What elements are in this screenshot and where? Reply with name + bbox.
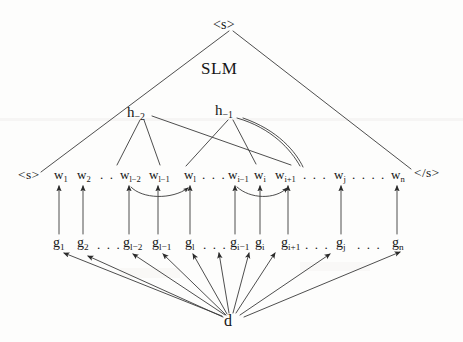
tag-sub: n — [399, 242, 404, 252]
tag-base: g — [392, 235, 399, 250]
head-node-sub: −1 — [223, 109, 234, 120]
tag-base: g — [123, 235, 130, 250]
head-node-sub: −2 — [135, 111, 146, 122]
tag-token-i: gi — [255, 236, 265, 252]
word-sub: l−2 — [129, 174, 141, 184]
word-base: w — [275, 167, 284, 182]
word-base: w — [120, 167, 129, 182]
word-base: w — [184, 167, 193, 182]
word-sub: j — [343, 174, 345, 184]
tag-sub: i−1 — [237, 242, 249, 252]
word-token-l-minus-1: wl−1 — [149, 168, 170, 183]
tag-token-1: g1 — [53, 236, 65, 252]
tag-sub: i — [262, 242, 265, 252]
head-node-base: h — [215, 102, 223, 118]
tag-sub: 1 — [60, 242, 65, 252]
word-base: w — [149, 167, 158, 182]
word-sub: i+1 — [284, 174, 296, 184]
word-base: w — [334, 167, 343, 182]
word-token-l-minus-2: wl−2 — [120, 168, 141, 183]
tag-ellipsis-3: . . . — [305, 238, 329, 251]
word-token-2: w2 — [77, 168, 91, 183]
tag-token-n: gn — [392, 236, 404, 252]
tag-base: g — [336, 235, 343, 250]
tag-sub: l−2 — [130, 242, 142, 252]
word-token-i: wi — [254, 168, 266, 183]
word-sub: i−1 — [237, 174, 249, 184]
tag-sub: i+1 — [288, 242, 300, 252]
head-node-h-minus-2: h−2 — [127, 105, 145, 122]
head-node-base: h — [127, 104, 135, 120]
word-base: w — [228, 167, 237, 182]
word-sub: i — [263, 174, 265, 184]
tag-base: g — [230, 235, 237, 250]
tag-token-i-plus-1: gi+1 — [281, 236, 300, 252]
tag-base: g — [77, 235, 84, 250]
word-sub: n — [400, 174, 404, 184]
root-node-label: <s> — [213, 18, 235, 32]
word-ellipsis-2: . . . — [202, 168, 226, 181]
tag-token-i-minus-1: gi−1 — [230, 236, 249, 252]
word-ellipsis-3: . . . — [303, 168, 327, 181]
tag-base: g — [281, 235, 288, 250]
word-sub: l — [193, 174, 195, 184]
sentence-start-token: <s> — [18, 168, 39, 182]
word-token-1: w1 — [54, 168, 68, 183]
tag-token-l-minus-2: gl−2 — [123, 236, 142, 252]
tag-token-j: gj — [336, 236, 346, 252]
tag-base: g — [152, 235, 159, 250]
word-base: w — [391, 167, 400, 182]
data-node-label: d — [224, 313, 232, 329]
slm-tree-diagram: <s> SLM h−2 h−1 <s> w1 w2 . . wl−2 wl−1 … — [0, 0, 463, 342]
tag-base: g — [185, 235, 192, 250]
tag-base: g — [53, 235, 60, 250]
word-ellipsis-1: . . — [100, 168, 115, 181]
tag-ellipsis-4: . . . — [357, 238, 381, 251]
word-ellipsis-4: . . . . — [352, 168, 386, 181]
word-base: w — [54, 167, 63, 182]
word-sub: 2 — [86, 174, 90, 184]
word-token-n: wn — [391, 168, 405, 183]
tag-sub: 2 — [84, 242, 89, 252]
tag-sub: j — [343, 242, 346, 252]
tag-sub: l−1 — [159, 242, 171, 252]
tag-sub: l — [192, 242, 195, 252]
sentence-end-token: </s> — [414, 166, 439, 180]
tag-token-l: gl — [185, 236, 195, 252]
tag-ellipsis-2: . . . — [203, 238, 227, 251]
head-node-h-minus-1: h−1 — [215, 103, 233, 120]
tag-base: g — [255, 235, 262, 250]
word-sub: 1 — [63, 174, 67, 184]
tag-token-l-minus-1: gl−1 — [152, 236, 171, 252]
tag-token-2: g2 — [77, 236, 89, 252]
word-base: w — [254, 167, 263, 182]
slm-node-label: SLM — [201, 60, 237, 77]
word-token-j: wj — [334, 168, 346, 183]
word-token-i-minus-1: wi−1 — [228, 168, 249, 183]
word-token-i-plus-1: wi+1 — [275, 168, 296, 183]
word-token-l: wl — [184, 168, 196, 183]
word-base: w — [77, 167, 86, 182]
word-sub: l−1 — [158, 174, 170, 184]
tag-ellipsis-1: . . . — [97, 238, 121, 251]
